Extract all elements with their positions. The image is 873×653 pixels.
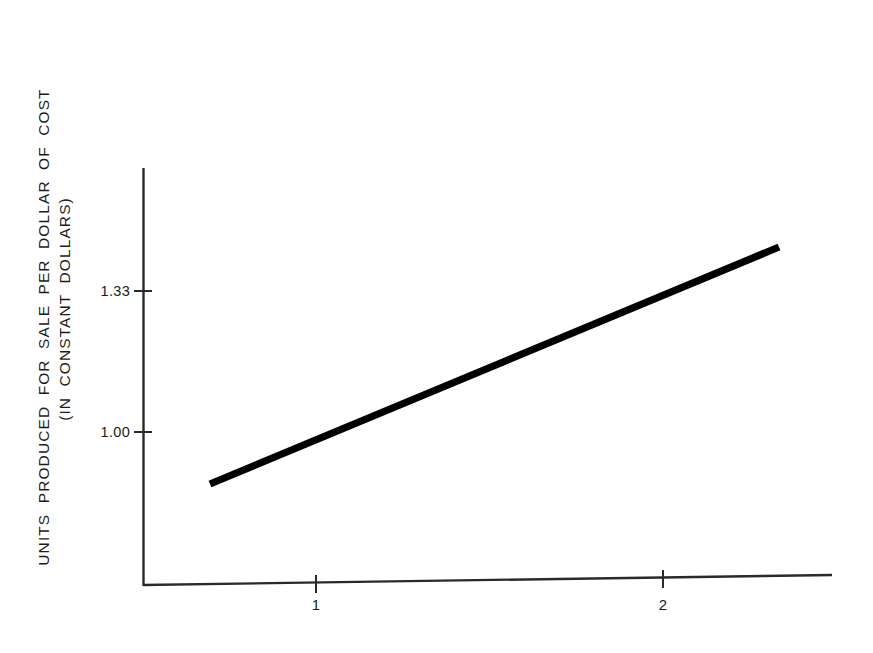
plot-area [0, 0, 873, 653]
x-axis-spine [143, 575, 832, 585]
chart-figure: UNITS PRODUCED FOR SALE PER DOLLAR OF CO… [0, 0, 873, 653]
data-line-series-1 [210, 247, 779, 484]
